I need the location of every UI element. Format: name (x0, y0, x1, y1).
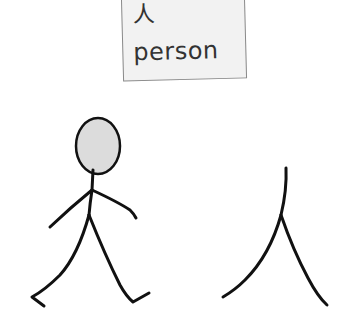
stick-figure-icon (32, 118, 149, 306)
ren-right-stroke (281, 215, 327, 305)
head (76, 118, 120, 174)
ren-left-stroke (223, 168, 286, 297)
right-leg (89, 215, 149, 302)
left-leg (32, 215, 89, 306)
ren-character-icon (223, 168, 327, 305)
right-arm (92, 190, 136, 218)
illustration (0, 0, 352, 325)
